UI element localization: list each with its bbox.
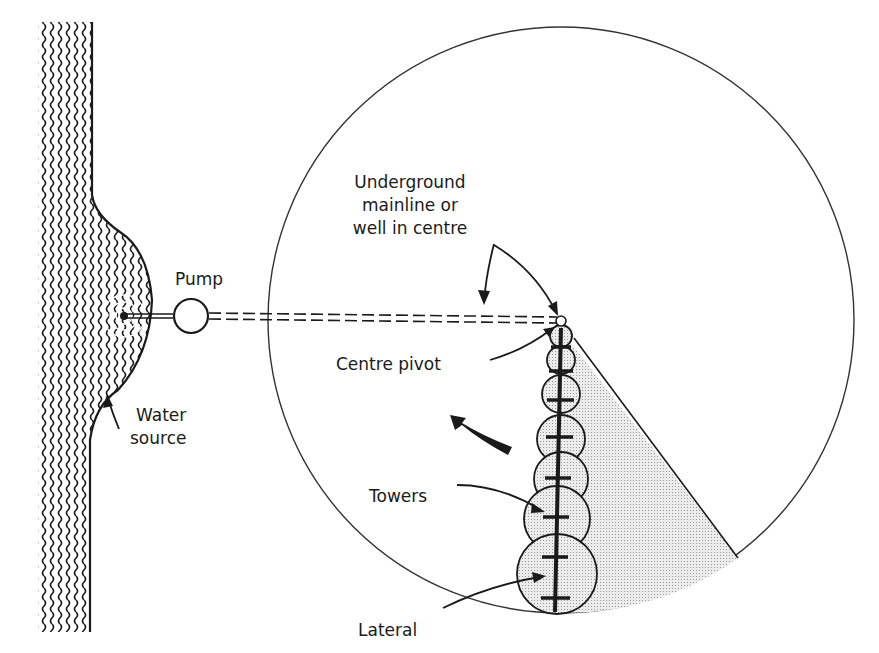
leader-arrows [108, 244, 556, 608]
pump-icon [174, 299, 208, 333]
mainline-label-line2: mainline or [330, 195, 490, 215]
pivot-diagram [0, 0, 879, 653]
underground-mainline [209, 313, 557, 323]
towers-label: Towers [369, 486, 427, 506]
water-source-body [36, 22, 156, 634]
centre-pivot-label: Centre pivot [336, 354, 441, 374]
rotation-arrow-icon [450, 415, 512, 455]
centre-pivot-icon [556, 316, 566, 326]
water-source-label-line2: source [130, 428, 186, 448]
water-source-label-line1: Water [136, 405, 186, 425]
mainline-label-line3: well in centre [325, 218, 495, 238]
lateral-label: Lateral [358, 620, 417, 640]
mainline-label-line1: Underground [330, 172, 490, 192]
pump-label: Pump [175, 269, 223, 289]
